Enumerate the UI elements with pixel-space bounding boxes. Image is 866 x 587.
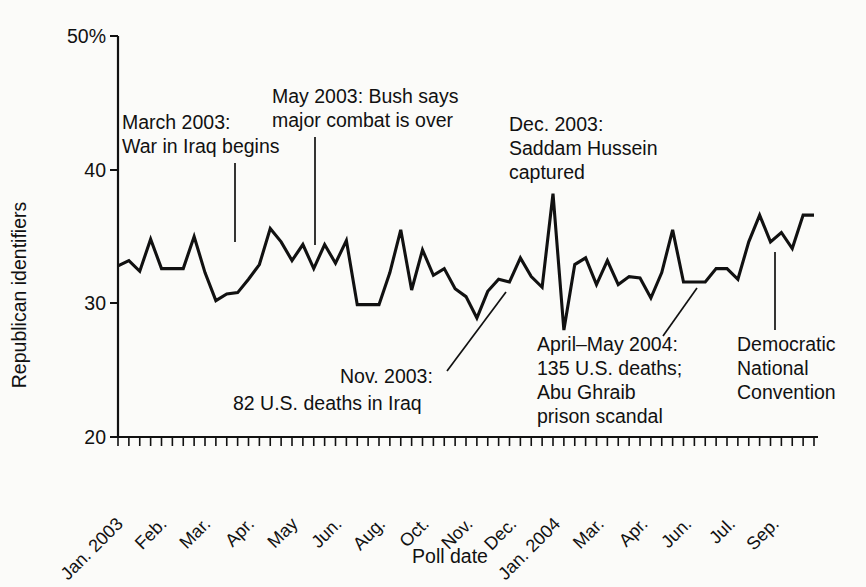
x-axis-label-feb: Feb. — [131, 514, 171, 554]
x-axis-label-apr: Apr. — [221, 514, 258, 551]
annotation-dnc-line-1: National — [737, 357, 809, 379]
y-axis-title: Republican identifiers — [8, 202, 30, 389]
y-tick-label-50: 50% — [67, 25, 106, 47]
annotation-may-2003: May 2003: Bush says major combat is over — [272, 85, 459, 245]
annotation-april-may-2004-line-1: 135 U.S. deaths; — [537, 357, 682, 379]
annotation-dnc: Democratic National Convention — [737, 252, 836, 403]
annotation-april-may-2004-line-2: Abu Ghraib — [537, 381, 636, 403]
x-axis-label-jul: Jul. — [705, 514, 739, 548]
annotation-march-2003-line-1: War in Iraq begins — [122, 135, 280, 157]
x-axis-label-jun: Jun. — [307, 514, 345, 552]
annotation-nov-2003-leader — [447, 292, 506, 371]
y-tick-label-40: 40 — [84, 159, 106, 181]
x-axis-label-jun: Jun. — [657, 514, 695, 552]
x-axis-ticks — [118, 437, 814, 446]
x-axis-label-mar: Mar. — [569, 514, 608, 553]
chart-container: Republican identifiers 50% 40 30 20 Jan.… — [0, 0, 866, 587]
x-axis-title: Poll date — [412, 545, 488, 567]
annotation-march-2003-line-0: March 2003: — [122, 111, 230, 133]
annotation-dnc-line-0: Democratic — [737, 333, 836, 355]
annotation-nov-2003-line-0: Nov. 2003: — [340, 365, 433, 387]
y-tick-label-20: 20 — [84, 426, 106, 448]
annotation-dec-2003: Dec. 2003: Saddam Hussein captured — [509, 113, 658, 183]
x-axis-label-mar: Mar. — [175, 514, 214, 553]
y-tick-label-30: 30 — [84, 292, 106, 314]
annotation-april-may-2004-line-0: April–May 2004: — [537, 333, 678, 355]
x-axis-label-jan-2003: Jan. 2003 — [57, 514, 127, 584]
annotation-april-may-2004-line-3: prison scandal — [537, 405, 663, 427]
x-axis-label-apr: Apr. — [615, 514, 652, 551]
annotation-nov-2003-line-1: 82 U.S. deaths in Iraq — [233, 392, 422, 414]
annotation-dec-2003-line-1: Saddam Hussein — [509, 137, 658, 159]
annotation-dnc-line-2: Convention — [737, 381, 836, 403]
x-axis-label-may: May — [264, 514, 302, 552]
annotation-dec-2003-line-2: captured — [509, 161, 585, 183]
annotation-may-2003-line-1: major combat is over — [272, 109, 453, 131]
annotation-may-2003-line-0: May 2003: Bush says — [272, 85, 459, 107]
x-axis-label-aug: Aug. — [349, 514, 389, 554]
annotation-april-may-2004-leader — [663, 288, 697, 336]
annotation-dec-2003-line-0: Dec. 2003: — [509, 113, 603, 135]
line-chart: Republican identifiers 50% 40 30 20 Jan.… — [0, 0, 866, 587]
annotation-march-2003: March 2003: War in Iraq begins — [122, 111, 280, 242]
annotation-nov-2003: Nov. 2003: 82 U.S. deaths in Iraq — [233, 292, 506, 414]
data-series-line — [118, 194, 814, 330]
x-axis-label-sep: Sep. — [743, 514, 783, 554]
